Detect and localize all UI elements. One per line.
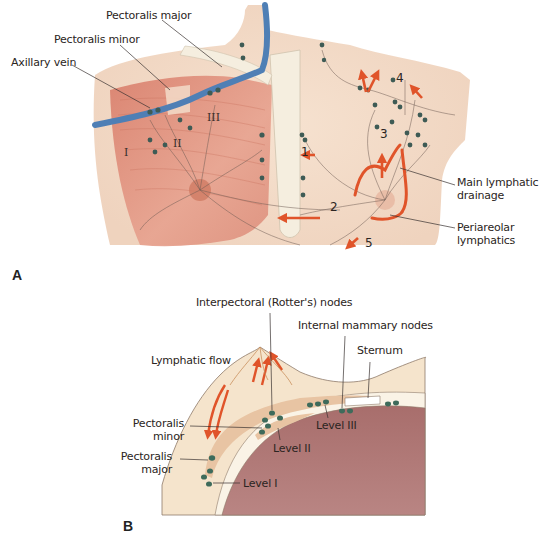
panel-a-letter: A <box>12 267 22 283</box>
level-iii-marker: III <box>207 111 220 124</box>
level-ii-marker: II <box>173 137 182 150</box>
label-main-lymphatic-line1: Main lymphatic <box>457 176 538 189</box>
label-periareolar-lymphatics: Periareolar lymphatics <box>457 221 515 247</box>
label-internal-mammary-nodes: Internal mammary nodes <box>298 319 433 332</box>
label-pectoralis-minor-line2: minor <box>132 430 184 443</box>
panel-a-illustration <box>94 5 470 246</box>
label-pectoralis-minor-line1: Pectoralis <box>132 417 184 430</box>
level-i-marker: I <box>124 146 128 159</box>
label-pectoralis-minor-b: Pectoralis minor <box>132 417 184 443</box>
panel-b-illustration <box>162 347 426 515</box>
pathway-4-label: 4 <box>396 71 404 85</box>
label-main-lymphatic-drainage: Main lymphatic drainage <box>457 176 538 202</box>
pathway-5-label: 5 <box>365 236 373 250</box>
label-interpectoral-nodes: Interpectoral (Rotter's) nodes <box>196 296 352 309</box>
pathway-3-label: 3 <box>380 127 388 141</box>
label-level-i: Level I <box>243 477 277 490</box>
label-pectoralis-major-line1: Pectoralis <box>120 450 172 463</box>
label-axillary-vein: Axillary vein <box>11 56 76 69</box>
label-level-iii: Level III <box>316 419 356 432</box>
label-periareolar-line1: Periareolar <box>457 221 515 234</box>
anatomy-figure <box>0 0 547 538</box>
label-sternum: Sternum <box>357 344 403 357</box>
pathway-1-label: 1 <box>301 145 309 159</box>
label-pectoralis-major-line2: major <box>120 463 172 476</box>
label-pectoralis-minor-a: Pectoralis minor <box>54 33 140 46</box>
label-level-ii: Level II <box>273 442 310 455</box>
label-lymphatic-flow: Lymphatic flow <box>151 354 231 367</box>
label-pectoralis-major-a: Pectoralis major <box>106 9 191 22</box>
panel-b-letter: B <box>123 518 133 534</box>
pathway-2-label: 2 <box>330 200 338 214</box>
label-periareolar-line2: lymphatics <box>457 234 515 247</box>
label-main-lymphatic-line2: drainage <box>457 189 538 202</box>
label-pectoralis-major-b: Pectoralis major <box>120 450 172 476</box>
